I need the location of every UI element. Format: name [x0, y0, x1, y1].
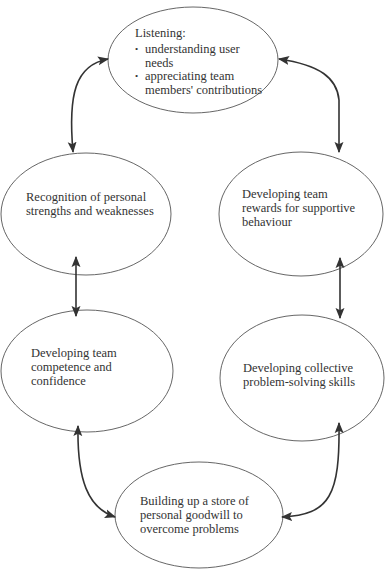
node-team-rewards: Developing team rewards for supportive b…: [242, 187, 355, 229]
node-listening-bullet-1: understanding user needs: [135, 43, 262, 70]
bullet-1-line-1: understanding user: [145, 43, 262, 57]
node-collective-line-1: Developing collective: [243, 361, 355, 375]
bullet-2-line-2: members' contributions: [145, 84, 262, 98]
node-collective-line-2: problem-solving skills: [243, 375, 355, 389]
node-goodwill-line-2: personal goodwill to: [140, 508, 249, 522]
node-collective-problem-solving: Developing collective problem-solving sk…: [243, 361, 355, 389]
node-team-rewards-line-3: behaviour: [242, 215, 355, 229]
bullet-2-line-1: appreciating team: [145, 70, 262, 84]
arrow-listening-team-rewards: [279, 59, 339, 152]
node-goodwill-line-3: overcome problems: [140, 522, 249, 536]
node-goodwill: Building up a store of personal goodwill…: [140, 494, 249, 536]
arrow-team-competence-goodwill: [78, 426, 115, 517]
node-listening-title: Listening:: [135, 26, 262, 40]
node-recognition-line-2: strengths and weaknesses: [26, 204, 154, 218]
node-listening-bullet-2: appreciating team members' contributions: [135, 70, 262, 97]
node-team-competence-line-3: confidence: [31, 374, 117, 388]
node-listening: Listening: understanding user needs appr…: [135, 26, 262, 97]
node-team-rewards-line-2: rewards for supportive: [242, 201, 355, 215]
node-recognition: Recognition of personal strengths and we…: [26, 190, 154, 218]
node-team-competence-line-1: Developing team: [31, 346, 117, 360]
node-team-competence: Developing team competence and confidenc…: [31, 346, 117, 388]
node-goodwill-line-1: Building up a store of: [140, 494, 249, 508]
bullet-1-line-2: needs: [145, 57, 262, 71]
node-team-rewards-line-1: Developing team: [242, 187, 355, 201]
arrow-listening-recognition: [72, 59, 108, 152]
node-team-competence-line-2: competence and: [31, 360, 117, 374]
node-recognition-line-1: Recognition of personal: [26, 190, 154, 204]
node-listening-bullets: understanding user needs appreciating te…: [135, 43, 262, 97]
